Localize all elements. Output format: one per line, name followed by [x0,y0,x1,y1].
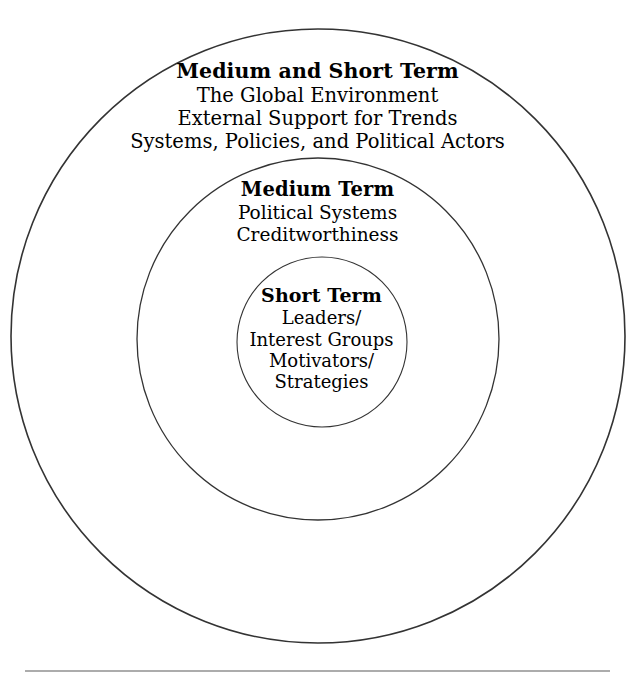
middle-ring-label-group: Medium Term Political Systems Creditwort… [0,178,635,246]
outer-ring-line-3: Systems, Policies, and Political Actors [0,130,635,153]
inner-circle-line-2: Interest Groups [4,329,635,350]
inner-circle-line-3: Motivators/ [4,350,635,371]
concentric-diagram: Medium and Short Term The Global Environ… [0,0,635,678]
middle-ring-title: Medium Term [0,178,635,201]
inner-circle-line-1: Leaders/ [4,307,635,328]
middle-ring-line-2: Creditworthiness [0,224,635,246]
inner-circle-label-group: Short Term Leaders/ Interest Groups Moti… [0,284,635,392]
middle-ring-line-1: Political Systems [0,202,635,224]
inner-circle-line-4: Strategies [4,371,635,392]
outer-ring-label-group: Medium and Short Term The Global Environ… [0,59,635,153]
outer-ring-title: Medium and Short Term [0,59,635,83]
outer-ring-line-2: External Support for Trends [0,107,635,130]
inner-circle-title: Short Term [4,284,635,306]
outer-ring-line-1: The Global Environment [0,84,635,107]
